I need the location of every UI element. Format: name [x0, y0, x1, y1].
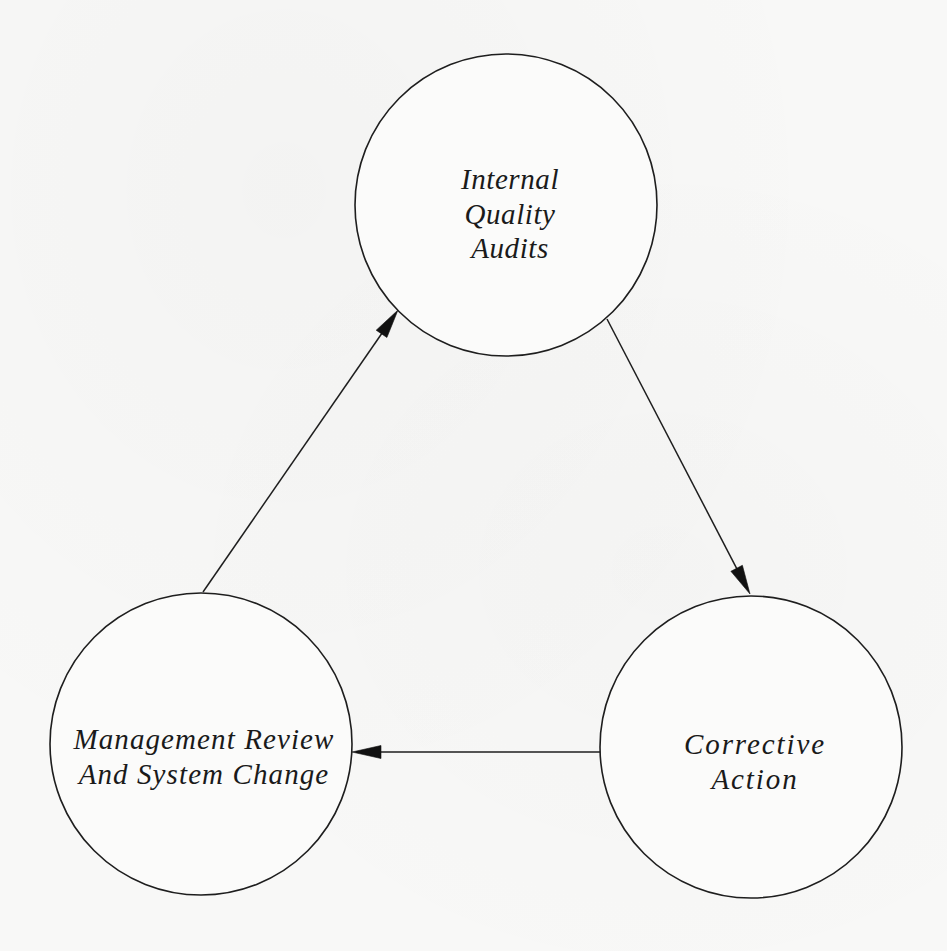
node-label-internal-quality-audits: Internal Quality Audits	[461, 162, 559, 266]
label-line: And System Change	[73, 757, 334, 792]
label-line: Internal	[461, 162, 559, 197]
diagram-canvas: Internal Quality Audits Corrective Actio…	[0, 0, 947, 951]
label-line: Audits	[461, 231, 559, 266]
label-line: Quality	[461, 197, 559, 232]
node-label-corrective-action: Corrective Action	[684, 727, 826, 796]
edge-audits-to-corrective	[607, 319, 738, 570]
label-line: Action	[684, 762, 826, 797]
node-label-management-review: Management Review And System Change	[73, 722, 334, 791]
label-line: Management Review	[73, 722, 334, 757]
arrowhead-icon	[376, 310, 398, 338]
cycle-diagram	[0, 0, 947, 951]
edge-management-to-audits	[203, 332, 383, 592]
label-line: Corrective	[684, 727, 826, 762]
arrowhead-icon	[352, 746, 381, 759]
arrowhead-icon	[731, 565, 750, 594]
